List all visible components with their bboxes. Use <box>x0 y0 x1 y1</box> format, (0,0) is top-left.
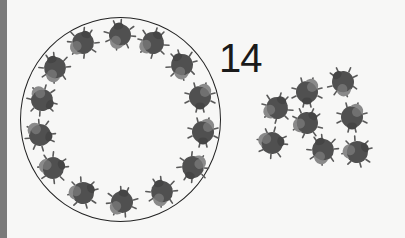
ladybug-icon <box>188 118 218 147</box>
ladybug-icon <box>257 88 297 128</box>
bugs-outside-group <box>256 61 378 172</box>
ladybug-icon <box>64 24 102 62</box>
ladybug-icon <box>162 45 202 85</box>
ladybug-icon <box>63 173 103 213</box>
ladybug-icon <box>174 149 212 187</box>
ladybug-icon <box>185 83 215 112</box>
ladybug-scene <box>0 0 405 238</box>
ladybug-icon <box>337 103 367 132</box>
ladybug-icon <box>322 61 364 102</box>
ladybug-icon <box>35 149 73 187</box>
ladybug-icon <box>133 23 173 63</box>
ladybug-icon <box>143 173 181 211</box>
ladybug-icon <box>36 49 74 87</box>
ladybug-icon <box>24 118 58 153</box>
ladybug-icon <box>105 185 140 219</box>
ladybug-icon <box>292 78 322 107</box>
ladybug-icon <box>337 132 377 172</box>
ladybug-icon <box>103 18 138 52</box>
bugs-in-ring-group <box>22 18 218 219</box>
ladybug-icon <box>256 126 290 161</box>
ladybug-icon <box>22 80 62 120</box>
ladybug-icon <box>304 131 342 169</box>
